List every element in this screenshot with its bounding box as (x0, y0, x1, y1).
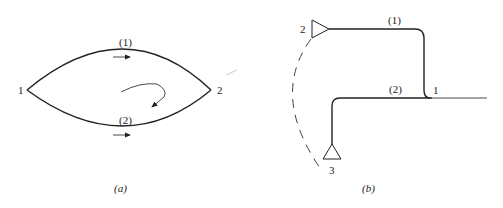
node-1-label: 1 (18, 84, 24, 96)
terminal-3-triangle-icon (323, 144, 341, 159)
terminal-2-triangle-icon (312, 20, 329, 38)
figure-a: 1 2 (1) (2) (a) (18, 36, 223, 195)
caption-a: (a) (114, 182, 127, 195)
node-2-label: 2 (217, 84, 223, 96)
path-1-route (329, 29, 430, 98)
path-1-label: (1) (119, 36, 132, 49)
node-3-label: 3 (329, 164, 335, 176)
node-2-label: 2 (300, 23, 306, 35)
path-1-label: (1) (388, 14, 401, 27)
node-1-label: 1 (433, 84, 439, 96)
figure-b: 1 2 3 (1) (2) (b) (293, 14, 487, 195)
path-1-upper-arc (27, 49, 211, 90)
path-2-label: (2) (389, 83, 402, 96)
dashed-link (293, 39, 320, 168)
circulation-arrow (121, 84, 165, 107)
connector-dash (226, 70, 237, 75)
caption-b: (b) (362, 182, 375, 195)
path-2-route (332, 98, 432, 145)
path-2-label: (2) (119, 114, 132, 127)
